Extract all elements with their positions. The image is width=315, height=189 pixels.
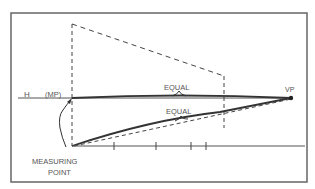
point-label: POINT: [48, 168, 71, 177]
ground-to-vp-line: [72, 98, 291, 146]
dashed-top-line: [72, 24, 224, 76]
equal-label-upper: EQUAL: [164, 83, 189, 92]
measuring-label: MEASURING: [32, 157, 78, 166]
measuring-point-arrow: [59, 100, 71, 147]
vanishing-point-dot: [289, 96, 293, 100]
equal-label-lower: EQUAL: [166, 107, 191, 116]
mp-label: (MP): [45, 90, 62, 99]
vp-label: VP: [285, 86, 295, 93]
perspective-diagram: H (MP) VP EQUAL EQUAL MEASURING POINT: [0, 0, 315, 189]
horizon-label: H: [24, 90, 30, 99]
